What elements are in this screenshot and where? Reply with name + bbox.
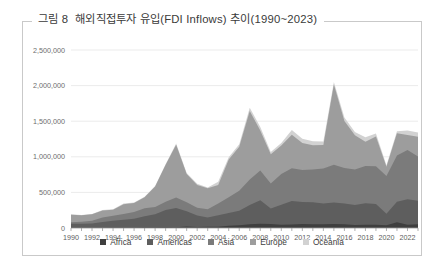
legend-item-americas[interactable]: Americas [147,237,192,247]
y-axis-tick-label: 2,000,000 [33,81,65,90]
legend-swatch-icon [303,239,309,245]
legend-swatch-icon [208,239,214,245]
legend-swatch-icon [100,239,106,245]
y-axis-tick-label: 500,000 [39,188,65,197]
legend-label: Asia [218,237,234,247]
caption-text: 해외직접투자 유입(FDI Inflows) 추이(1990~2023) [75,13,317,25]
legend-label: Europe [260,237,287,247]
chart-legend: AfricaAmericasAsiaEuropeOceania [22,234,422,250]
figure-container: 그림 8해외직접투자 유입(FDI Inflows) 추이(1990~2023)… [0,0,445,275]
y-axis-tick-label: 1,500,000 [33,117,65,126]
y-axis-tick-label: 2,500,000 [33,46,65,55]
legend-item-oceania[interactable]: Oceania [303,237,344,247]
y-axis-tick-label: 1,000,000 [33,152,65,161]
caption-number: 그림 8 [38,13,68,25]
legend-label: Africa [110,237,131,247]
y-axis-tick-label: 0 [61,224,65,233]
legend-item-africa[interactable]: Africa [100,237,131,247]
figure-caption: 그림 8해외직접투자 유입(FDI Inflows) 추이(1990~2023) [32,10,324,29]
legend-swatch-icon [250,239,256,245]
legend-label: Oceania [313,237,344,247]
legend-swatch-icon [147,239,153,245]
legend-item-europe[interactable]: Europe [250,237,287,247]
legend-item-asia[interactable]: Asia [208,237,234,247]
legend-label: Americas [157,237,192,247]
chart-plot-area: 0500,0001,000,0001,500,0002,000,0002,500… [22,32,422,256]
stacked-area-chart: 0500,0001,000,0001,500,0002,000,0002,500… [22,32,422,256]
